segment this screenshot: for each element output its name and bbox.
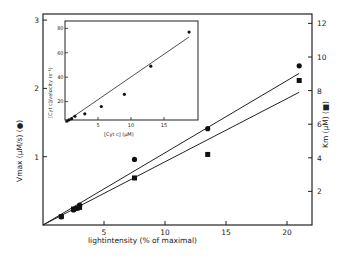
right-y-tick-label: 12 [317, 19, 327, 28]
right-y-tick-label: 2 [317, 187, 322, 196]
left-y-tick-label: 1 [34, 153, 39, 162]
km-data-point [297, 78, 302, 83]
left-y-tick-label: 2 [34, 84, 39, 93]
vmax-data-point [205, 126, 210, 131]
inset-x-axis-title: [Cyt c] (μM) [104, 131, 134, 138]
inset-data-point [149, 65, 152, 68]
inset-y-tick-label: 60 [57, 50, 63, 56]
km-data-point [77, 205, 82, 210]
right-y-tick-label: 10 [317, 53, 327, 62]
vmax-data-point [132, 157, 137, 162]
inset-data-point [187, 30, 190, 33]
inset-data-point [100, 105, 103, 108]
km-data-point [205, 152, 210, 157]
inset-y-tick-label: 40 [57, 74, 63, 80]
inset-x-tick-label: 5 [96, 122, 99, 128]
left-y-tick-label: 3 [34, 16, 39, 25]
right-y-tick-label: 8 [317, 87, 322, 96]
x-tick-label: 20 [282, 228, 292, 237]
inset-y-tick-label: 20 [57, 98, 63, 104]
inset-plot: 5101520406080 [57, 21, 198, 128]
right-y-axis-title: Km (μM) (■) [321, 101, 330, 148]
inset-data-point [73, 115, 76, 118]
inset-y-tick-label: 80 [57, 25, 63, 31]
inset-x-tick-label: 15 [161, 122, 167, 128]
inset-data-point [123, 93, 126, 96]
inset-data-point [83, 112, 86, 115]
inset-data-point [70, 117, 73, 120]
km-data-point [59, 214, 64, 219]
km-data-point [132, 175, 137, 180]
chart-figure: 510152012324681012 5101520406080 lightin… [0, 0, 351, 261]
right-y-tick-label: 4 [317, 154, 322, 163]
inset-frame [65, 21, 198, 120]
left-y-axis-title: Vmax (μM/s) (●) [15, 120, 24, 182]
inset-x-tick-label: 10 [128, 122, 134, 128]
x-tick-label: 15 [221, 228, 231, 237]
vmax-data-point [297, 63, 302, 68]
x-axis-title: lightintensity (% of maximal) [88, 236, 197, 245]
inset-y-axis-title: [Cyt c]/velocity (s⁻¹) [47, 67, 54, 118]
